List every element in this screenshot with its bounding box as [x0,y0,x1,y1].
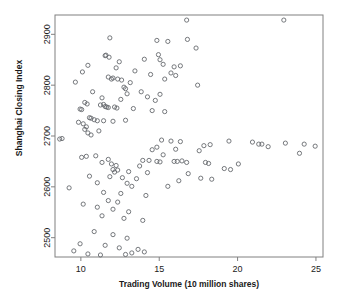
y-tick-label: 2800 [42,75,52,95]
scatter-point [80,155,84,159]
scatter-point [94,154,98,158]
scatter-point [158,58,162,62]
y-tick-label: 2700 [42,126,52,146]
scatter-point [147,158,151,162]
scatter-point [153,98,157,102]
y-axis-ticks: 25002600270028002900 [42,24,55,247]
scatter-point [228,167,232,171]
scatter-point [116,200,120,204]
scatter-point [155,38,159,42]
scatter-point [134,177,138,181]
scatter-point [172,65,176,69]
scatter-point [120,176,124,180]
scatter-point [178,64,182,68]
y-tick-label: 2600 [42,177,52,197]
scatter-point [127,210,131,214]
scatter-point [283,141,287,145]
scatter-point [144,193,148,197]
scatter-point [109,162,113,166]
scatter-point [107,55,111,59]
scatter-point [159,138,163,142]
scatter-point [106,157,110,161]
x-tick-label: 20 [233,264,243,274]
scatter-point [174,147,178,151]
scatter-point [95,181,99,185]
scatter-point [81,202,85,206]
scatter-point [222,166,226,170]
scatter-point [76,120,80,124]
scatter-point [197,149,201,153]
scatter-point [114,163,118,167]
scatter-point [130,251,134,255]
scatter-point [250,140,254,144]
scatter-point [122,216,126,220]
scatter-point [111,207,115,211]
scatter-point [123,118,127,122]
scatter-points [58,18,318,257]
scatter-point [150,148,154,152]
scatter-point [177,179,181,183]
scatter-point [166,39,170,43]
scatter-point [86,63,90,67]
scatter-point [131,106,135,110]
scatter-point [185,160,189,164]
scatter-point [125,181,129,185]
scatter-point [84,154,88,158]
scatter-point [194,46,198,50]
scatter-point [208,143,212,147]
scatter-point [150,108,154,112]
scatter-point [139,90,143,94]
scatter-point [103,243,107,247]
scatter-point [313,144,317,148]
x-tick-label: 10 [76,264,86,274]
scatter-point [125,236,129,240]
scatter-point [101,119,105,123]
scatter-point [178,139,182,143]
scatter-point [133,69,137,73]
scatter-point [180,159,184,163]
scatter-point [138,164,142,168]
scatter-point [92,229,96,233]
scatter-point [100,96,104,100]
scatter-point [185,37,189,41]
scatter-point [89,133,93,137]
scatter-point [117,246,121,250]
scatter-point [210,177,214,181]
scatter-point [266,145,270,149]
scatter-point [72,249,76,253]
scatter-point [161,153,165,157]
y-axis-title: Shanghai Closing Index [14,60,24,157]
scatter-point [156,53,160,57]
scatter-point [174,73,178,77]
scatter-point [80,70,84,74]
plot-frame [55,15,323,257]
scatter-point [119,191,123,195]
scatter-point [97,129,101,133]
scatter-point [236,162,240,166]
scatter-point [98,253,102,257]
scatter-point [108,36,112,40]
scatter-point [199,176,203,180]
scatter-point [128,81,132,85]
scatter-point [163,77,167,81]
scatter-point [141,158,145,162]
scatter-point [119,97,123,101]
y-tick-label: 2900 [42,24,52,44]
scatter-point [120,78,124,82]
scatter-point [101,190,105,194]
scatter-point [142,57,146,61]
scatter-point [149,72,153,76]
scatter-point [136,247,140,251]
scatter-point [100,214,104,218]
scatter-point [145,171,149,175]
scatter-point [163,110,167,114]
scatter-point [78,242,82,246]
chart-canvas: 10152025 25002600270028002900 Trading Vo… [0,0,337,306]
scatter-point [297,151,301,155]
x-axis-ticks: 10152025 [76,257,321,274]
scatter-point [100,160,104,164]
scatter-point [125,92,129,96]
scatter-point [169,71,173,75]
scatter-point [161,62,165,66]
scatter-point [123,252,127,256]
